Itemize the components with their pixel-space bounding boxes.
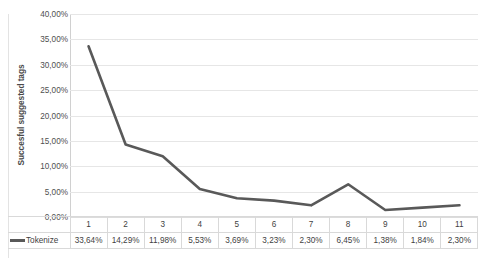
y-axis-tick-label: 5,00% <box>26 187 68 196</box>
value-cell: 3,23% <box>255 233 292 249</box>
value-cell: 3,69% <box>218 233 255 249</box>
table-corner-cell <box>8 217 70 233</box>
category-header-cell: 8 <box>330 217 367 233</box>
category-header-cell: 11 <box>441 217 478 233</box>
value-cell: 6,45% <box>330 233 367 249</box>
value-cell: 2,30% <box>441 233 478 249</box>
value-cell: 11,98% <box>144 233 181 249</box>
value-cell: 14,29% <box>107 233 144 249</box>
y-axis-tick-label: 35,00% <box>26 35 68 44</box>
legend-label: Tokenize <box>26 236 58 245</box>
plot-area <box>70 14 478 217</box>
chart-screenshot: Succesful suggested tags 0,00%5,00%10,00… <box>0 0 487 268</box>
table-row-categories: 1234567891011 <box>8 217 478 233</box>
legend-line-swatch-icon <box>10 239 25 242</box>
y-axis-tick-label: 10,00% <box>26 162 68 171</box>
series-polyline <box>89 46 460 210</box>
category-header-cell: 2 <box>107 217 144 233</box>
y-axis-tick-label: 40,00% <box>26 10 68 19</box>
value-cell: 1,84% <box>404 233 441 249</box>
series-line-tokenize <box>70 14 478 217</box>
value-cell: 33,64% <box>70 233 107 249</box>
category-header-cell: 5 <box>218 217 255 233</box>
y-axis-tick-label: 15,00% <box>26 136 68 145</box>
y-axis-tick-label: 25,00% <box>26 86 68 95</box>
y-axis-tick-label: 30,00% <box>26 60 68 69</box>
category-header-cell: 4 <box>181 217 218 233</box>
category-header-cell: 1 <box>70 217 107 233</box>
value-cell: 1,38% <box>367 233 404 249</box>
y-axis-tick-label: 20,00% <box>26 111 68 120</box>
legend-entry-tokenize[interactable]: Tokenize <box>8 233 70 249</box>
category-header-cell: 7 <box>292 217 329 233</box>
value-cell: 2,30% <box>292 233 329 249</box>
chart-data-table: 1234567891011 Tokenize 33,64%14,29%11,98… <box>8 216 478 249</box>
category-header-cell: 3 <box>144 217 181 233</box>
category-header-cell: 6 <box>255 217 292 233</box>
category-header-cell: 9 <box>367 217 404 233</box>
table-row-values: Tokenize 33,64%14,29%11,98%5,53%3,69%3,2… <box>8 233 478 249</box>
value-cell: 5,53% <box>181 233 218 249</box>
y-axis-tick-labels: 0,00%5,00%10,00%15,00%20,00%25,00%30,00%… <box>26 14 68 217</box>
category-header-cell: 10 <box>404 217 441 233</box>
